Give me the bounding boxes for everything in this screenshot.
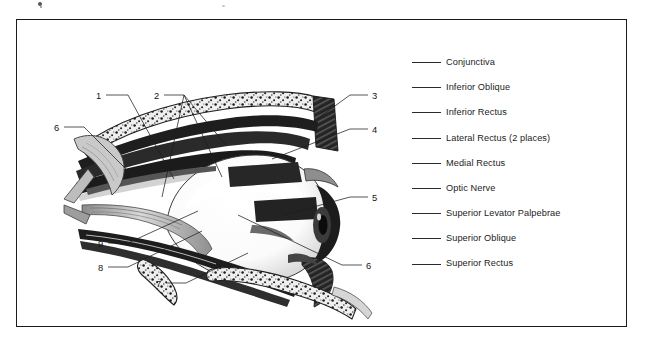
- legend: Conjunctiva Inferior Oblique Inferior Re…: [412, 50, 636, 277]
- legend-item-inferior-rectus: Inferior Rectus: [412, 100, 636, 125]
- legend-dash: [412, 112, 441, 113]
- legend-item-lateral-rectus: Lateral Rectus (2 places): [412, 126, 636, 151]
- legend-item-conjunctiva: Conjunctiva: [412, 50, 636, 75]
- legend-label: Conjunctiva: [446, 58, 495, 67]
- legend-dash: [412, 138, 441, 139]
- legend-dash: [412, 163, 441, 164]
- legend-item-superior-levator-palpebrae: Superior Levator Palpebrae: [412, 201, 636, 226]
- legend-item-superior-oblique: Superior Oblique: [412, 226, 636, 251]
- scan-speck: [40, 6, 42, 8]
- callout-number-9: 9: [98, 238, 103, 249]
- legend-label: Medial Rectus: [446, 159, 505, 168]
- legend-dash: [412, 62, 441, 63]
- callout-number-3: 3: [372, 90, 377, 101]
- legend-label: Superior Oblique: [446, 234, 516, 243]
- legend-dash: [412, 188, 441, 189]
- callout-number-6-right: 6: [366, 260, 371, 271]
- legend-dash: [412, 238, 441, 239]
- eye-anatomy-illustration: 1 2 3 4 5 6 6 7 8 9: [16, 19, 416, 327]
- callout-number-7: 7: [156, 278, 161, 289]
- legend-item-superior-rectus: Superior Rectus: [412, 252, 636, 277]
- legend-item-optic-nerve: Optic Nerve: [412, 176, 636, 201]
- legend-dash: [412, 213, 441, 214]
- callout-number-5: 5: [372, 192, 377, 203]
- callout-number-6-left: 6: [54, 122, 59, 133]
- callout-number-2: 2: [154, 90, 159, 101]
- legend-label: Superior Rectus: [446, 259, 513, 268]
- callout-number-1: 1: [96, 90, 101, 101]
- legend-label: Inferior Rectus: [446, 108, 507, 117]
- legend-label: Optic Nerve: [446, 184, 495, 193]
- callout-number-8: 8: [98, 262, 103, 273]
- corneal-highlight: [317, 214, 321, 221]
- legend-dash: [412, 87, 441, 88]
- legend-item-medial-rectus: Medial Rectus: [412, 151, 636, 176]
- legend-label: Lateral Rectus (2 places): [446, 134, 550, 143]
- medial-rectus-insertion: [254, 197, 318, 222]
- legend-item-inferior-oblique: Inferior Oblique: [412, 75, 636, 100]
- scan-speck: [222, 5, 225, 7]
- legend-label: Inferior Oblique: [446, 83, 510, 92]
- legend-dash: [412, 264, 441, 265]
- callout-number-4: 4: [372, 124, 377, 135]
- legend-label: Superior Levator Palpebrae: [446, 209, 560, 218]
